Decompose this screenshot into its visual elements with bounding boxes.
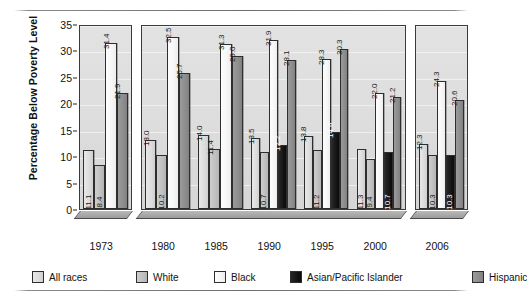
legend-label-all: All races <box>49 272 87 283</box>
y-tick-mark-30 <box>73 51 77 52</box>
bar-value-label: 31.4 <box>103 33 111 49</box>
bar-slot-2006-black: 24.3 <box>437 26 446 209</box>
y-tick-label-25: 25 <box>60 72 72 84</box>
y-tick-mark-0 <box>73 210 77 211</box>
bar-slot-2006-all: 12.3 <box>419 26 428 209</box>
x-axis-label-1995: 1995 <box>311 240 334 252</box>
plot-area: 05101520253035 11.18.431.421.913.010.232… <box>53 25 468 228</box>
bar-group-2000: 11.39.422.010.721.2 <box>354 26 407 209</box>
bar-1990-asian[interactable]: 12.2 <box>278 145 287 209</box>
y-tick-mark-15 <box>73 130 77 131</box>
x-axis-label-1985: 1985 <box>205 240 228 252</box>
legend-item-asian[interactable]: Asian/Pacific Islander <box>290 271 403 283</box>
bar-slot-1985-hisp: 29.0 <box>232 26 243 209</box>
legend-swatch-black-icon <box>214 271 226 283</box>
legend-swatch-all-icon <box>32 271 44 283</box>
panel-base-shadow <box>136 211 407 219</box>
bar-group-1990: 13.510.731.912.228.1 <box>248 26 301 209</box>
y-tick-mark-5 <box>73 183 77 184</box>
panel-2006: 12.310.324.310.320.6 <box>415 25 468 210</box>
bar-1995-hisp[interactable]: 30.3 <box>340 49 349 209</box>
bar-group-1985: 14.011.431.329.0 <box>195 26 248 209</box>
bar-group-2006: 12.310.324.310.320.6 <box>416 26 469 209</box>
bar-1973-black[interactable]: 31.4 <box>105 43 116 209</box>
bar-1985-black[interactable]: 31.3 <box>220 44 231 209</box>
bar-slot-1995-all: 13.8 <box>304 26 313 209</box>
bar-value-label: 28.3 <box>318 50 326 66</box>
bar-1995-white[interactable]: 11.2 <box>313 150 322 209</box>
bars-container: 13.010.232.525.714.011.431.329.013.510.7… <box>142 26 405 209</box>
panel-container: 11.18.431.421.913.010.232.525.714.011.43… <box>79 25 468 210</box>
bar-slot-2000-asian: 10.7 <box>384 26 393 209</box>
bar-group-1973: 11.18.431.421.9 <box>80 26 133 209</box>
bar-value-label: 32.5 <box>165 28 173 44</box>
bar-value-label: 11.2 <box>313 195 321 210</box>
bar-slot-1990-white: 10.7 <box>260 26 269 209</box>
y-tick-label-0: 0 <box>66 204 72 216</box>
bar-value-label: 10.2 <box>158 194 166 210</box>
bar-slot-1980-hisp: 25.7 <box>179 26 190 209</box>
bar-value-label: 30.3 <box>336 39 344 55</box>
legend-item-white[interactable]: White <box>136 271 179 283</box>
bar-1990-white[interactable]: 10.7 <box>260 152 269 209</box>
legend-swatch-white-icon <box>136 271 148 283</box>
bar-slot-2000-all: 11.3 <box>357 26 366 209</box>
y-tick-mark-25 <box>73 77 77 78</box>
x-axis-label-1980: 1980 <box>152 240 175 252</box>
bar-2000-white[interactable]: 9.4 <box>366 159 375 209</box>
y-tick-mark-20 <box>73 104 77 105</box>
bar-value-label: 21.2 <box>389 87 397 103</box>
bar-value-label: 31.3 <box>218 34 226 50</box>
bar-1990-hisp[interactable]: 28.1 <box>287 60 296 209</box>
bar-1973-hisp[interactable]: 21.9 <box>117 93 128 209</box>
bar-2006-all[interactable]: 12.3 <box>419 144 428 209</box>
bar-group-1995: 13.811.228.314.630.3 <box>301 26 354 209</box>
bar-value-label: 29.0 <box>229 46 237 62</box>
bar-slot-1980-black: 32.5 <box>167 26 178 209</box>
bar-slot-1985-all: 14.0 <box>198 26 209 209</box>
bar-1973-all[interactable]: 11.1 <box>83 150 94 209</box>
bar-1990-black[interactable]: 31.9 <box>269 40 278 209</box>
bar-2000-hisp[interactable]: 21.2 <box>393 97 402 209</box>
y-tick-label-35: 35 <box>60 19 72 31</box>
bar-slot-1980-white: 10.2 <box>156 26 167 209</box>
legend-item-hisp[interactable]: Hispanic <box>472 271 527 283</box>
bar-1985-hisp[interactable]: 29.0 <box>232 56 243 209</box>
bar-value-label: 22.0 <box>371 83 379 99</box>
panel-base-shadow <box>74 211 133 219</box>
y-tick-label-15: 15 <box>60 125 72 137</box>
bar-slot-2006-white: 10.3 <box>428 26 437 209</box>
bar-1995-asian[interactable]: 14.6 <box>331 132 340 209</box>
legend-item-all[interactable]: All races <box>32 271 87 283</box>
bar-2000-black[interactable]: 22.0 <box>375 93 384 209</box>
bar-2006-black[interactable]: 24.3 <box>437 81 446 209</box>
bar-2006-white[interactable]: 10.3 <box>428 155 437 209</box>
bar-slot-1995-hisp: 30.3 <box>340 26 349 209</box>
x-axis-label-1973: 1973 <box>90 240 113 252</box>
legend-label-asian: Asian/Pacific Islander <box>307 272 403 283</box>
bar-1980-all[interactable]: 13.0 <box>145 140 156 209</box>
bars-container: 11.18.431.421.9 <box>80 26 131 209</box>
chart-legend: All racesWhiteBlackAsian/Pacific Islande… <box>32 268 468 286</box>
bar-value-label: 12.2 <box>274 135 282 151</box>
bars-container: 12.310.324.310.320.6 <box>416 26 467 209</box>
legend-label-black: Black <box>231 272 255 283</box>
bar-1980-white[interactable]: 10.2 <box>156 155 167 209</box>
bar-slot-1990-hisp: 28.1 <box>287 26 296 209</box>
bar-2000-asian[interactable]: 10.7 <box>384 152 393 209</box>
bar-2006-asian[interactable]: 10.3 <box>446 155 455 209</box>
bar-1973-white[interactable]: 8.4 <box>94 165 105 209</box>
bar-value-label: 8.4 <box>96 196 104 207</box>
bar-value-label: 13.8 <box>300 126 308 142</box>
y-axis-ticks: 05101520253035 <box>53 25 77 210</box>
legend-item-black[interactable]: Black <box>214 271 255 283</box>
panel-1980-2000: 13.010.232.525.714.011.431.329.013.510.7… <box>141 25 406 210</box>
bar-slot-2000-white: 9.4 <box>366 26 375 209</box>
bar-slot-1990-black: 31.9 <box>269 26 278 209</box>
bar-1985-white[interactable]: 11.4 <box>209 149 220 209</box>
bar-2006-hisp[interactable]: 20.6 <box>455 100 464 209</box>
bar-value-label: 11.1 <box>85 195 93 210</box>
bar-1980-hisp[interactable]: 25.7 <box>179 73 190 209</box>
x-axis-labels: 1973198019851990199520002006 <box>79 240 468 254</box>
